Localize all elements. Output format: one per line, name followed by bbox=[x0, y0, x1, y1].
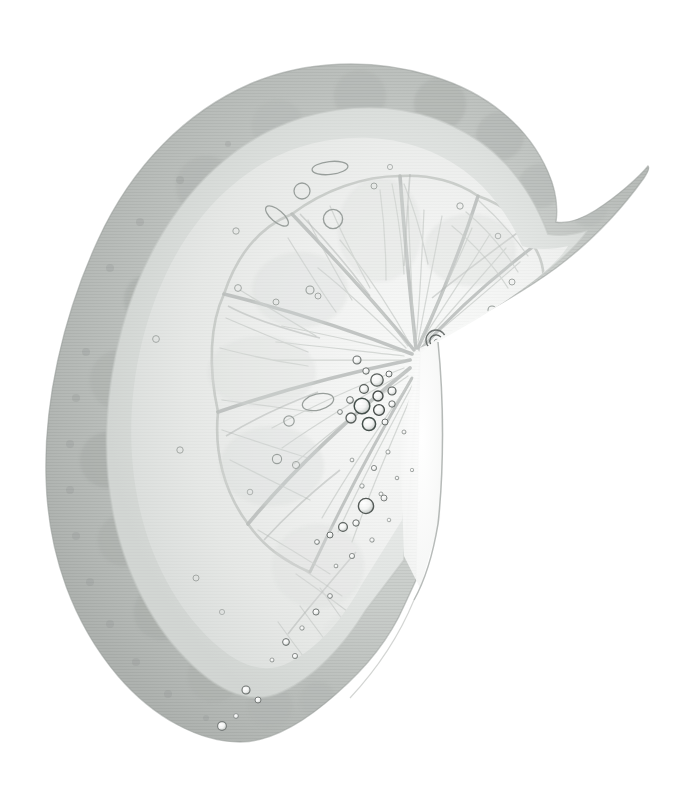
citrus-slice-photograph bbox=[0, 0, 692, 804]
image-canvas bbox=[0, 0, 692, 804]
